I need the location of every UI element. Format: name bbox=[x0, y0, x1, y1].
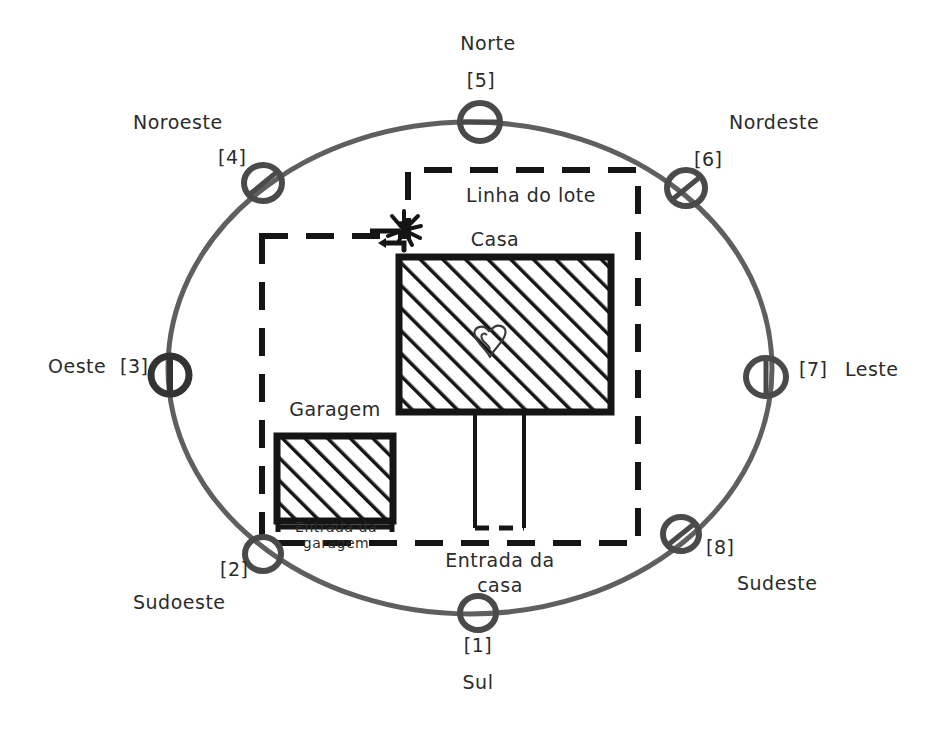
compass-number-5: [5] bbox=[467, 69, 495, 91]
compass-number-1: [1] bbox=[464, 634, 492, 656]
garage-label: Garagem bbox=[289, 398, 381, 420]
compass-number-4: [4] bbox=[218, 146, 246, 168]
compass-number-2: [2] bbox=[220, 558, 248, 580]
compass-label-nordeste: Nordeste bbox=[729, 111, 819, 133]
compass-label-sudoeste: Sudoeste bbox=[133, 591, 226, 613]
compass-label-leste: Leste bbox=[845, 358, 898, 380]
compass-label-sudeste: Sudeste bbox=[737, 572, 817, 594]
burst-arrow-icon bbox=[386, 243, 404, 250]
compass-node-5[interactable] bbox=[460, 103, 500, 141]
house-walkway bbox=[475, 412, 524, 528]
compass-label-oeste: Oeste bbox=[48, 355, 106, 377]
compass-number-7: [7] bbox=[799, 358, 827, 380]
house-entrance-label-line1: Entrada da bbox=[445, 548, 554, 573]
burst-arrow-head-icon bbox=[378, 238, 386, 248]
compass-node-7[interactable] bbox=[746, 357, 786, 397]
compass-number-8: [8] bbox=[706, 536, 734, 558]
compass-node-3[interactable] bbox=[151, 356, 189, 394]
burst-icon bbox=[388, 211, 421, 245]
compass-number-6: [6] bbox=[694, 148, 722, 170]
garage-entrance-label: Entrada da garagem bbox=[295, 519, 377, 551]
garage-entrance-label-line1: Entrada da bbox=[295, 519, 377, 535]
house-label: Casa bbox=[471, 228, 519, 250]
garage-entrance-label-line2: garagem bbox=[295, 535, 377, 551]
diagram-canvas: Norte [5] Noroeste [4] Nordeste [6] Oest… bbox=[0, 0, 938, 738]
compass-number-3: [3] bbox=[120, 355, 148, 377]
house-entrance-label-line2: casa bbox=[445, 573, 554, 598]
house-entrance-label: Entrada da casa bbox=[445, 548, 554, 597]
compass-label-noroeste: Noroeste bbox=[133, 111, 223, 133]
compass-label-sul: Sul bbox=[463, 671, 494, 693]
compass-node-4[interactable] bbox=[244, 165, 282, 201]
compass-label-norte: Norte bbox=[460, 32, 515, 54]
lot-line-label: Linha do lote bbox=[466, 184, 596, 206]
garage-shape bbox=[277, 436, 393, 521]
